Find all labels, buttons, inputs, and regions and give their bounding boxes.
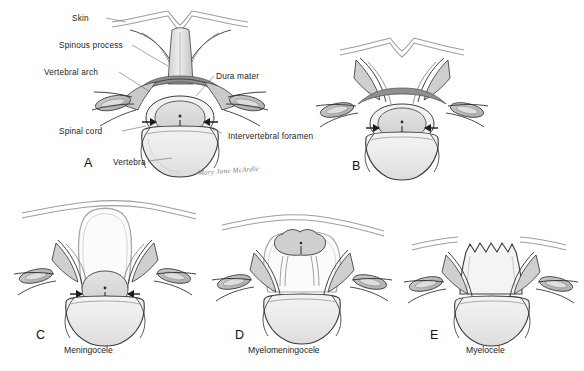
label-skin: Skin	[72, 13, 89, 23]
label-vertebra: Vertebra	[113, 157, 146, 167]
artist-signature: Mary Jane McArdle	[198, 165, 259, 177]
panel-letter-e: E	[430, 328, 438, 342]
label-dura-mater: Dura mater	[216, 71, 259, 81]
label-intervertebral-foramen: Intervertebral foramen	[228, 131, 313, 141]
panel-c-illustration	[14, 201, 196, 346]
panel-d-illustration	[212, 215, 392, 344]
panel-caption-d: Myelomeningocele	[248, 345, 320, 355]
figure-illustration	[0, 0, 584, 371]
label-spinal-cord: Spinal cord	[59, 126, 102, 136]
panel-b-illustration	[316, 38, 488, 180]
label-vertebral-arch: Vertebral arch	[44, 67, 98, 77]
panel-a-illustration	[92, 11, 268, 177]
panel-letter-b: B	[352, 159, 360, 173]
panel-caption-e: Myelocele	[466, 345, 505, 355]
panel-letter-d: D	[235, 328, 244, 342]
label-spinous-process: Spinous process	[59, 40, 123, 50]
panel-letter-c: C	[36, 328, 45, 342]
spina-bifida-figure: Skin Spinous process Vertebral arch Dura…	[0, 0, 584, 371]
panel-letter-a: A	[84, 156, 92, 170]
panel-caption-c: Meningocele	[64, 345, 113, 355]
